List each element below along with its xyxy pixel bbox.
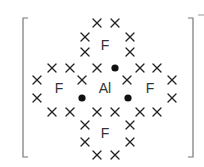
cross-electron-icon — [136, 64, 144, 72]
cross-electron-icon — [66, 108, 74, 116]
dot-electron-icon — [78, 94, 85, 101]
left-bracket — [23, 18, 28, 157]
cross-electron-icon — [66, 64, 74, 72]
cross-electron-icon — [93, 19, 101, 27]
fluorine-right-label: F — [146, 80, 155, 96]
cross-electron-icon — [126, 121, 134, 129]
cross-electron-icon — [48, 64, 56, 72]
atom-labels: Al F F F F — [55, 37, 155, 141]
cross-electron-icon — [33, 94, 41, 102]
cross-electron-icon — [123, 76, 131, 84]
dot-electron-icon — [124, 94, 131, 101]
cross-electron-icon — [93, 151, 101, 159]
cross-electron-icon — [93, 64, 101, 72]
dot-cross-diagram: Al F F F F — [0, 0, 204, 167]
fluorine-left-label: F — [55, 80, 64, 96]
cross-electron-icon — [111, 108, 119, 116]
cross-electron-icon — [126, 138, 134, 146]
diagram-canvas: Al F F F F — [0, 0, 204, 167]
cross-electron-icon — [81, 138, 89, 146]
cross-electron-icon — [81, 33, 89, 41]
fluorine-bottom-label: F — [101, 125, 110, 141]
cross-electron-icon — [136, 108, 144, 116]
cross-electron-icon — [48, 108, 56, 116]
cross-electron-icon — [168, 76, 176, 84]
cross-electron-icon — [111, 151, 119, 159]
right-bracket — [188, 18, 193, 157]
cross-electron-icon — [126, 33, 134, 41]
dot-electron-icon — [111, 64, 118, 71]
cross-electron-icon — [153, 108, 161, 116]
cross-electron-icon — [168, 94, 176, 102]
cross-electron-icon — [81, 121, 89, 129]
central-atom-label: Al — [99, 80, 111, 96]
cross-electron-icon — [153, 64, 161, 72]
fluorine-top-label: F — [101, 37, 110, 53]
cross-electron-icon — [126, 48, 134, 56]
cross-electron-icon — [33, 76, 41, 84]
cross-electron-icon — [81, 48, 89, 56]
cross-electron-icon — [111, 19, 119, 27]
cross-electron-icon — [78, 76, 86, 84]
cross-electron-icon — [93, 108, 101, 116]
